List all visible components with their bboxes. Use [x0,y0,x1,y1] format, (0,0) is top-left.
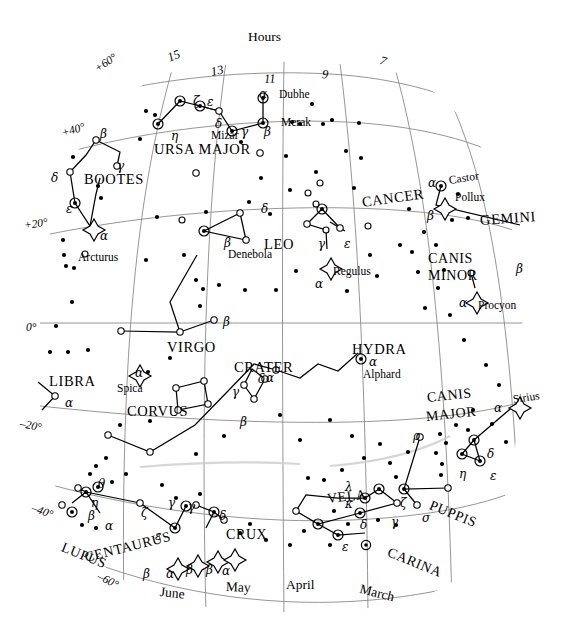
greek-label--5: ζ [193,95,200,107]
line-virgo [121,255,214,332]
greek-label--8: γ [117,160,124,172]
greek-label--15: α [459,297,467,309]
gridline-dec-20 [50,208,532,238]
greek-label--11: α [100,230,108,242]
star-name-mizar-2: Mizar [211,130,238,142]
greek-label--7: β [100,128,107,140]
greek-label--20: α [315,278,323,290]
greek-label--24: α [266,372,274,384]
constellation-label-hydra-11: HYDRA [352,342,407,357]
greek-label--35: σ [422,512,430,524]
constellation-label-libra-8: LIBRA [49,374,96,389]
meridian-11 [283,60,285,618]
meridian-5 [446,92,520,540]
month-label-april-2: April [286,578,315,592]
star-name-pollux-7: Pollux [455,192,485,204]
greek-label--47: β [143,568,150,580]
hour-label-11-2: 11 [264,72,276,85]
star-name-denebola-4: Denebola [228,249,272,261]
greek-label--23: α [135,367,143,379]
star-name-merak-1: Merak [281,117,311,129]
constellation-label-corvus-10: CORVUS [127,404,188,419]
greek-label--53: ε [155,530,161,542]
greek-label--3: δ [215,118,222,130]
greek-label--9: δ [51,172,58,184]
greek-label--1: β [264,126,271,138]
greek-label--52: ζ [141,507,148,519]
greek-label--26: γ [232,386,239,398]
constellation-label-ursa-major-0: URSA MAJOR [154,142,251,157]
greek-label--41: γ [188,501,195,513]
greek-label--19: ε [344,238,350,250]
star-chart: Hours 15131197 +60°+40°+20°0°–20°–40°–60… [0,0,568,638]
dec-label-0-3: 0° [26,322,36,334]
month-label-may-1: May [226,580,251,594]
greek-label--43: α [222,565,230,577]
month-label-june-0: June [159,585,185,601]
constellation-label-minor-6: MINOR [428,269,478,283]
greek-label--44: β [206,564,213,576]
greek-label--54: γ [168,497,175,509]
greek-label--40: ε [342,541,348,553]
star-name-alphard-10: Alphard [363,369,401,381]
greek-label--4: ε [207,96,213,108]
star-name-regulus-5: Regulus [333,266,371,278]
greek-label--34: ζ [400,497,407,509]
greek-label--39: γ [391,516,398,528]
greek-label--37: κ [345,498,353,510]
greek-label--13: β [427,210,434,222]
hour-label-13-1: 13 [210,64,225,79]
greek-label--17: β [224,237,231,249]
greek-label--50: β [88,510,95,522]
greek-label--45: β [186,564,193,576]
greek-label--28: α [369,356,377,368]
greek-label--14: β [516,263,523,275]
greek-label--49: η [91,497,98,509]
greek-label--18: γ [318,238,325,250]
greek-label--2: γ [241,126,248,138]
gridline-dec-40 [76,121,528,172]
star-name-procyon-8: Procyon [478,300,516,312]
greek-label--29: α [494,402,502,414]
greek-label--33: ρ [413,430,420,442]
greek-label--31: ε [490,470,496,482]
greek-label--21: β [223,316,230,328]
greek-label--36: λ [345,481,353,493]
star-name-dubhe-0: Dubhe [279,89,310,101]
greek-label--46: α [166,568,174,580]
constellation-lines [38,98,520,535]
greek-label--51: α [105,520,113,532]
greek-label--10: ε [66,203,72,215]
star-name-arcturus-3: Arcturus [78,252,118,264]
greek-label--0: α [259,88,267,100]
constellation-label-virgo-7: VIRGO [167,340,216,355]
greek-label--6: η [171,130,178,142]
greek-label--38: δ [360,519,367,531]
greek-label--30: δ [487,448,494,460]
star-name-spica-9: Spica [117,383,143,395]
greek-label--16: δ [261,203,268,215]
milky-way-band [140,436,450,467]
greek-label--22: α [65,397,73,409]
greek-label--25: β [240,416,247,428]
greek-label--12: α [428,177,436,189]
line-carina [318,524,365,535]
constellation-label-crux-17: CRUX [226,528,267,542]
hours-axis-title: Hours [248,30,281,44]
star-mag2 [67,93,485,550]
greek-label--42: δ [219,510,226,522]
meridian-7 [396,72,452,606]
greek-label--27: δ [258,373,265,385]
greek-label--48: θ [98,478,105,490]
greek-label--32: η [459,468,466,480]
constellation-label-bootes-1: BOOTES [84,172,144,187]
constellation-label-canis-5: CANIS [428,252,473,266]
